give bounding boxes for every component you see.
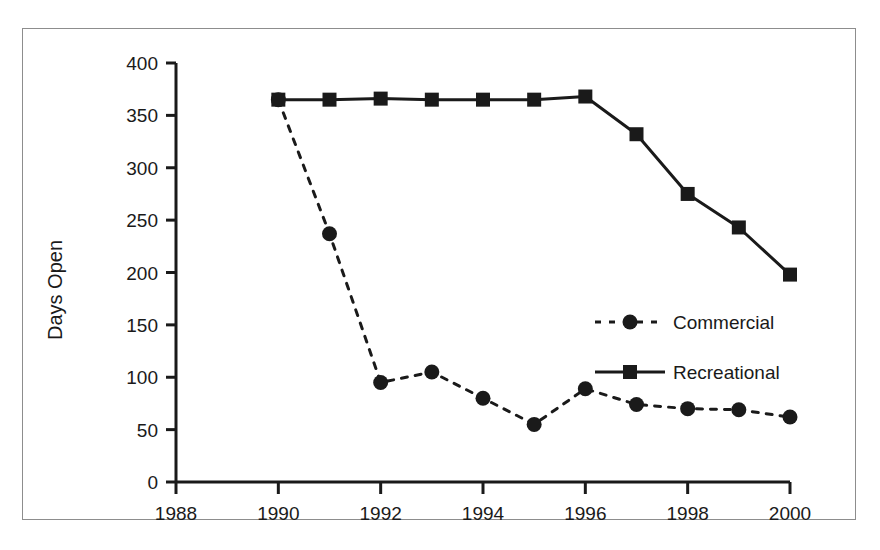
x-tick-label: 1990 — [257, 503, 299, 524]
data-point-square[interactable] — [732, 220, 746, 234]
data-point-circle[interactable] — [476, 391, 491, 406]
data-point-circle[interactable] — [373, 375, 388, 390]
legend-item-commercial[interactable]: Commercial — [595, 312, 774, 333]
y-axis-label: Days Open — [44, 240, 66, 340]
x-tick-label: 1992 — [360, 503, 402, 524]
data-point-circle[interactable] — [578, 381, 593, 396]
data-point-circle[interactable] — [322, 226, 337, 241]
data-point-square[interactable] — [681, 187, 695, 201]
legend-marker-circle — [623, 315, 638, 330]
data-point-square[interactable] — [374, 92, 388, 106]
data-point-square[interactable] — [578, 90, 592, 104]
series-line — [278, 97, 790, 275]
data-point-square[interactable] — [425, 93, 439, 107]
y-tick-label: 50 — [137, 420, 158, 441]
legend-item-recreational[interactable]: Recreational — [595, 362, 780, 383]
y-tick-label: 0 — [147, 472, 158, 493]
y-tick-label: 400 — [126, 53, 158, 74]
data-point-circle[interactable] — [731, 402, 746, 417]
x-tick-label: 2000 — [769, 503, 811, 524]
data-point-square[interactable] — [783, 268, 797, 282]
x-axis-ticks: 1988199019921994199619982000 — [155, 482, 811, 524]
data-point-square[interactable] — [476, 93, 490, 107]
y-tick-label: 250 — [126, 210, 158, 231]
data-point-square[interactable] — [630, 127, 644, 141]
legend-marker-square — [623, 365, 637, 379]
legend-label: Commercial — [673, 312, 774, 333]
y-axis-ticks: 050100150200250300350400 — [126, 53, 176, 493]
x-tick-label: 1998 — [667, 503, 709, 524]
line-chart: Days Open 050100150200250300350400 19881… — [0, 0, 880, 550]
y-tick-label: 100 — [126, 367, 158, 388]
figure-canvas: Days Open 050100150200250300350400 19881… — [0, 0, 880, 550]
data-point-square[interactable] — [271, 93, 285, 107]
y-tick-label: 150 — [126, 315, 158, 336]
data-point-circle[interactable] — [527, 417, 542, 432]
data-point-circle[interactable] — [680, 401, 695, 416]
data-point-square[interactable] — [323, 93, 337, 107]
data-point-circle[interactable] — [424, 365, 439, 380]
chart-legend: CommercialRecreational — [595, 312, 780, 383]
x-tick-label: 1996 — [564, 503, 606, 524]
data-point-circle[interactable] — [783, 410, 798, 425]
data-point-circle[interactable] — [629, 397, 644, 412]
x-tick-label: 1994 — [462, 503, 505, 524]
legend-label: Recreational — [673, 362, 780, 383]
axes — [176, 63, 790, 482]
y-tick-label: 200 — [126, 263, 158, 284]
data-point-square[interactable] — [527, 93, 541, 107]
y-tick-label: 350 — [126, 105, 158, 126]
y-tick-label: 300 — [126, 158, 158, 179]
x-tick-label: 1988 — [155, 503, 197, 524]
series-recreational — [271, 90, 797, 282]
